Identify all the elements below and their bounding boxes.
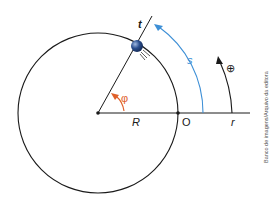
positive-direction-label: ⊕ — [226, 62, 235, 74]
label-t: t — [138, 18, 143, 30]
angle-phi-arrowhead — [111, 93, 119, 100]
label-s: s — [187, 54, 193, 66]
label-phi: φ — [121, 92, 128, 104]
label-r: r — [231, 116, 236, 128]
origin-point — [176, 111, 180, 115]
center-point — [96, 111, 100, 115]
circular-motion-diagram: t s φ R O r ⊕ Banco de imagens/Arquivo d… — [0, 0, 279, 202]
image-credit: Banco de imagens/Arquivo da editora — [263, 70, 269, 163]
label-O: O — [182, 116, 191, 128]
label-R: R — [132, 116, 140, 128]
arc-length-arrowhead — [154, 24, 163, 31]
positive-direction-arrowhead — [216, 56, 223, 64]
